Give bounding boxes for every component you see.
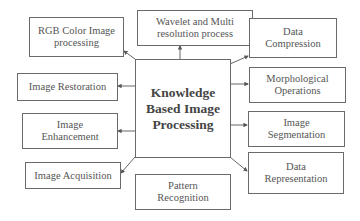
node-label: Image Segmentation [268, 117, 326, 141]
node-data-compression: Data Compression [249, 18, 337, 58]
edge-to-rgb [124, 51, 135, 59]
node-label: RGB Color Image processing [38, 25, 115, 49]
node-pattern-recognition: Pattern Recognition [135, 174, 231, 210]
node-label: Image Acquisition [34, 170, 111, 182]
knowledge-based-image-processing-diagram: Knowledge Based Image Processing RGB Col… [0, 0, 360, 221]
node-label: Morphological Operations [266, 73, 328, 97]
node-label: Data Representation [265, 161, 328, 185]
edge-to-compression [230, 56, 248, 64]
node-image-acquisition: Image Acquisition [25, 162, 121, 189]
node-data-representation: Data Representation [248, 152, 344, 194]
node-label: Image Enhancement [41, 119, 98, 143]
node-morphological-operations: Morphological Operations [249, 67, 346, 103]
node-label: Pattern Recognition [157, 180, 208, 204]
center-node-knowledge-based-image-processing: Knowledge Based Image Processing [135, 59, 231, 158]
node-wavelet-multiresolution: Wavelet and Multi resolution process [137, 10, 253, 46]
node-image-enhancement: Image Enhancement [22, 113, 118, 149]
center-node-label: Knowledge Based Image Processing [146, 85, 220, 133]
node-rgb-color-image-processing: RGB Color Image processing [29, 17, 124, 57]
edge-to-representation [230, 157, 247, 171]
node-image-segmentation: Image Segmentation [248, 111, 345, 147]
node-label: Wavelet and Multi resolution process [156, 16, 234, 40]
edge-to-acquisition [121, 157, 135, 173]
node-label: Image Restoration [29, 81, 106, 93]
node-image-restoration: Image Restoration [17, 73, 118, 101]
node-label: Data Compression [265, 26, 320, 50]
